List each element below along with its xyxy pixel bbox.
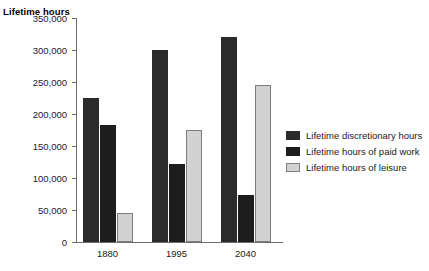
x-axis-label: 1995 xyxy=(166,248,187,259)
bar xyxy=(255,85,271,242)
legend-label: Lifetime hours of leisure xyxy=(306,162,407,173)
legend-swatch-icon xyxy=(286,163,300,172)
y-axis-tick-label: 0 xyxy=(62,237,67,248)
bar xyxy=(221,37,237,242)
bar-group xyxy=(152,18,202,242)
y-axis-tick-label: 100,000 xyxy=(33,173,67,184)
legend-label: Lifetime hours of paid work xyxy=(306,146,420,157)
x-axis-label: 2040 xyxy=(235,248,256,259)
bar xyxy=(100,125,116,242)
x-axis-line xyxy=(76,242,283,243)
legend-swatch-icon xyxy=(286,131,300,140)
legend-swatch-icon xyxy=(286,147,300,156)
bar xyxy=(152,50,168,242)
y-axis-tick-label: 50,000 xyxy=(38,205,67,216)
y-axis-tick: 0 xyxy=(72,242,77,243)
y-axis-tick-label: 300,000 xyxy=(33,45,67,56)
y-axis-tick: 100,000 xyxy=(72,178,77,179)
y-axis-tick-label: 200,000 xyxy=(33,109,67,120)
bar xyxy=(169,164,185,242)
bar xyxy=(186,130,202,242)
y-axis-tick: 50,000 xyxy=(72,210,77,211)
bar xyxy=(238,195,254,242)
legend-label: Lifetime discretionary hours xyxy=(306,130,422,141)
y-axis-tick-label: 150,000 xyxy=(33,141,67,152)
plot-area: 050,000100,000150,000200,000250,000300,0… xyxy=(76,18,283,243)
bar xyxy=(83,98,99,242)
legend-item: Lifetime hours of leisure xyxy=(286,160,422,174)
y-axis-tick: 350,000 xyxy=(72,18,77,19)
bar-group xyxy=(221,18,271,242)
y-axis-tick: 250,000 xyxy=(72,82,77,83)
bar-chart: Lifetime hours 050,000100,000150,000200,… xyxy=(0,0,429,271)
y-axis-tick-label: 350,000 xyxy=(33,13,67,24)
y-axis-tick: 300,000 xyxy=(72,50,77,51)
legend-item: Lifetime hours of paid work xyxy=(286,144,422,158)
y-axis-tick: 200,000 xyxy=(72,114,77,115)
x-axis-label: 1880 xyxy=(97,248,118,259)
legend-item: Lifetime discretionary hours xyxy=(286,128,422,142)
bar-group xyxy=(83,18,133,242)
y-axis-tick-label: 250,000 xyxy=(33,77,67,88)
legend: Lifetime discretionary hoursLifetime hou… xyxy=(286,128,422,176)
y-axis-tick: 150,000 xyxy=(72,146,77,147)
bar xyxy=(117,213,133,242)
